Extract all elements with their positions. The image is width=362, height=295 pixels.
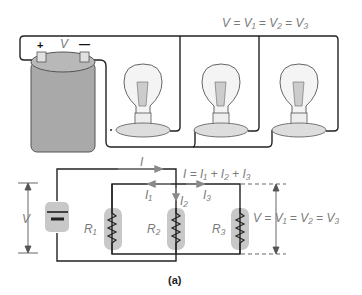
current-equation: I = I₁ + I₂ + I₃ — [183, 167, 251, 181]
resistor-r3-label: R₃ — [212, 222, 226, 236]
light-bulb-1 — [116, 64, 170, 137]
current-i3-label: I₃ — [203, 188, 211, 202]
parallel-circuit-figure: V = V₁ = V₂ = V₃ + V — — [0, 0, 362, 295]
source-voltage-label: V — [22, 212, 31, 226]
resistor-r2-label: R₂ — [147, 222, 161, 236]
battery-voltage-label: V — [60, 37, 69, 51]
positive-terminal — [37, 52, 46, 62]
current-i2-label: I₂ — [180, 194, 188, 208]
minus-sign: — — [79, 38, 90, 50]
light-bulb-3 — [272, 64, 326, 137]
battery-highlight — [45, 202, 69, 232]
negative-terminal — [80, 52, 89, 62]
battery: + V — — [31, 37, 95, 152]
resistor-r1-label: R₁ — [84, 222, 97, 236]
voltage-equation: V = V₁ = V₂ = V₃ — [253, 211, 339, 225]
schematic-wires — [57, 169, 240, 261]
figure-caption: (a) — [168, 274, 182, 286]
current-i1-label: I₁ — [145, 188, 152, 202]
pictorial-equation: V = V₁ = V₂ = V₃ — [222, 16, 308, 30]
current-total-label: I — [140, 155, 144, 169]
light-bulb-2 — [194, 64, 248, 137]
plus-sign: + — [37, 39, 43, 51]
